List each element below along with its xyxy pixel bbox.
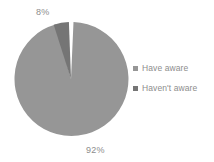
pie-slice-have-aware[interactable] [14,22,128,136]
legend-label-havent-aware: Haven't aware [142,84,197,93]
data-label-small-slice: 8% [36,8,49,17]
legend-swatch-icon [133,66,138,71]
chart-legend: Have aware Haven't aware [133,58,213,98]
pie-chart-container: 8% 92% Have aware Haven't aware [0,0,214,162]
legend-item-havent-aware[interactable]: Haven't aware [133,78,213,98]
data-label-large-slice: 92% [86,146,105,155]
legend-item-have-aware[interactable]: Have aware [133,58,213,78]
legend-label-have-aware: Have aware [142,64,188,73]
legend-swatch-icon [133,86,138,91]
